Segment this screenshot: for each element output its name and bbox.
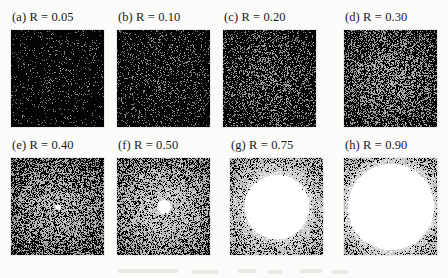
speckle-image-h xyxy=(344,158,437,255)
panel-label-d: (d) R = 0.30 xyxy=(344,10,437,28)
panel-b: (b) R = 0.10 xyxy=(117,10,210,127)
speckle-canvas-c xyxy=(223,30,316,127)
speckle-image-e xyxy=(11,158,104,255)
speckle-image-g xyxy=(230,158,323,255)
speckle-canvas-f xyxy=(117,158,210,255)
speckle-image-c xyxy=(223,30,316,127)
speckle-canvas-a xyxy=(11,30,104,127)
panel-a: (a) R = 0.05 xyxy=(11,10,104,127)
panel-h: (h) R = 0.90 xyxy=(344,138,437,255)
speckle-canvas-d xyxy=(344,30,437,127)
speckle-canvas-e xyxy=(11,158,104,255)
speckle-image-f xyxy=(117,158,210,255)
panel-f: (f) R = 0.50 xyxy=(117,138,210,255)
speckle-canvas-g xyxy=(230,158,323,255)
panel-c: (c) R = 0.20 xyxy=(223,10,316,127)
panel-label-a: (a) R = 0.05 xyxy=(11,10,104,28)
panel-label-c: (c) R = 0.20 xyxy=(223,10,316,28)
panel-label-h: (h) R = 0.90 xyxy=(344,138,437,156)
speckle-image-d xyxy=(344,30,437,127)
panel-e: (e) R = 0.40 xyxy=(11,138,104,255)
panel-d: (d) R = 0.30 xyxy=(344,10,437,127)
figure-panel-grid: (a) R = 0.05(b) R = 0.10(c) R = 0.20(d) … xyxy=(0,0,448,278)
speckle-image-b xyxy=(117,30,210,127)
panel-label-f: (f) R = 0.50 xyxy=(117,138,210,156)
speckle-image-a xyxy=(11,30,104,127)
panel-label-g: (g) R = 0.75 xyxy=(230,138,323,156)
speckle-canvas-h xyxy=(344,158,437,255)
panel-label-e: (e) R = 0.40 xyxy=(11,138,104,156)
panel-g: (g) R = 0.75 xyxy=(230,138,323,255)
cut-off-caption-artifact xyxy=(0,269,448,278)
speckle-canvas-b xyxy=(117,30,210,127)
panel-label-b: (b) R = 0.10 xyxy=(117,10,210,28)
